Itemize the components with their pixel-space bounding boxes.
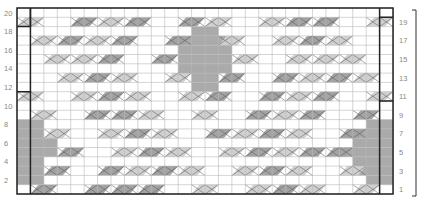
row-number-left: 18	[4, 27, 12, 36]
row-number-left: 10	[4, 102, 12, 111]
row-number-left: 8	[4, 120, 8, 129]
purl-fill-block	[17, 148, 57, 157]
row-number-right: 9	[399, 111, 403, 120]
knitting-chart	[0, 0, 423, 203]
row-number-left: 20	[4, 9, 12, 18]
row-number-right: 19	[399, 18, 407, 27]
row-number-right: 11	[399, 92, 407, 101]
row-number-right: 17	[399, 36, 407, 45]
row-number-right: 15	[399, 55, 407, 64]
row-number-right: 5	[399, 148, 403, 157]
row-number-right: 1	[399, 185, 403, 194]
row-number-left: 4	[4, 157, 8, 166]
row-number-left: 16	[4, 46, 12, 55]
purl-fill-block	[17, 138, 57, 147]
row-number-left: 6	[4, 139, 8, 148]
purl-fill-block	[353, 157, 393, 166]
row-number-left: 14	[4, 64, 12, 73]
row-number-right: 3	[399, 167, 403, 176]
purl-fill-block	[353, 138, 393, 147]
row-number-right: 13	[399, 74, 407, 83]
row-number-left: 2	[4, 176, 8, 185]
row-number-right: 7	[399, 129, 403, 138]
row-number-left: 12	[4, 83, 12, 92]
